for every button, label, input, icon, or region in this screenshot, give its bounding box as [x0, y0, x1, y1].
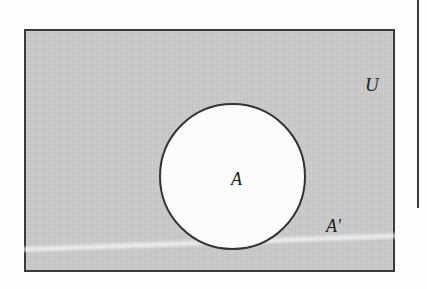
universal-set-label: U: [365, 75, 379, 94]
venn-diagram-figure: A U A′: [0, 0, 427, 289]
universal-set-rectangle: A U A′: [24, 29, 395, 272]
set-a-label: A: [161, 105, 310, 252]
page-gutter-rule: [417, 0, 419, 208]
set-a-complement-label: A′: [326, 217, 341, 235]
set-a-circle: A: [159, 103, 306, 250]
